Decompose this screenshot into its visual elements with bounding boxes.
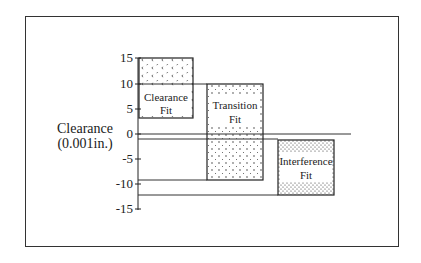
interference-fit-box: Interference Fit <box>278 140 334 195</box>
tick-15: 15 <box>120 50 133 65</box>
clearance-fit-box: Clearance Fit <box>139 58 193 118</box>
tick-neg10: -10 <box>116 176 133 191</box>
clearance-fit-label-1: Clearance <box>144 91 188 103</box>
transition-fit-label-1: Transition <box>213 99 258 111</box>
fit-diagram: ‹ › 15 10 5 0 -5 -10 -15 <box>0 0 421 263</box>
tick-0: 0 <box>127 126 134 141</box>
tick-neg15: -15 <box>116 201 133 216</box>
transition-fit-label-2: Fit <box>229 113 241 125</box>
tick-5: 5 <box>127 101 134 116</box>
tick-neg5: -5 <box>122 151 133 166</box>
interference-fit-label-2: Fit <box>300 169 312 181</box>
interference-fit-label-1: Interference <box>279 155 332 167</box>
clearance-fit-label-2: Fit <box>160 104 172 116</box>
transition-fit-box: Transition Fit <box>207 84 263 180</box>
tick-10: 10 <box>120 76 133 91</box>
